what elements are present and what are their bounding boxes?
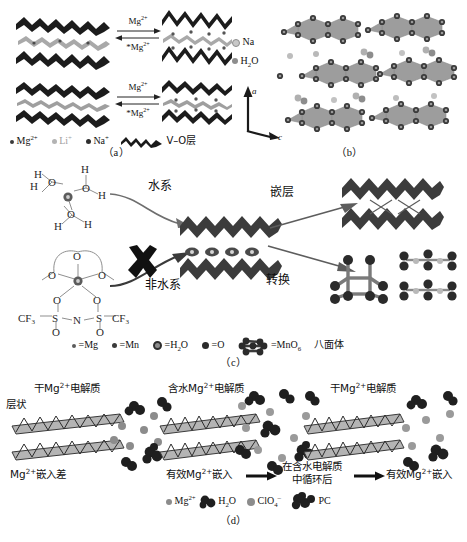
panel-d-legend: Mg2+ H2O ClO4– PC: [166, 490, 331, 509]
panel-a-row2-right-structure: [160, 78, 234, 132]
panel-b-legend-na-label: Na: [243, 36, 255, 47]
panel-a-row1-arrow-top-label: Mg2+: [115, 16, 161, 26]
interlayer-species-row1: [287, 47, 435, 59]
octahedron-cluster-icon: [238, 337, 268, 355]
panel-c-conversion-product-right: [398, 250, 462, 308]
panel-c-legend-item-h2o: =H2O: [153, 339, 188, 350]
panel-d-stage2-title: 含水Mg2+电解质: [168, 380, 244, 395]
panel-d-stage3-caption: 有效Mg2+嵌入: [386, 466, 452, 481]
panel-c-intercalation-label: 嵌层: [270, 182, 294, 199]
panel-c-blocked-x-icon: [124, 244, 162, 282]
atom-S: S: [96, 312, 102, 324]
atom-H: H: [81, 163, 89, 175]
panel-c-legend-item-mg: =Mg: [72, 339, 98, 350]
panel-d-legend-item-h2o: H2O: [200, 495, 236, 506]
clo4-dot-icon: [247, 498, 255, 506]
panel-d-arrow-2: [354, 470, 386, 482]
atom-N: N: [73, 314, 81, 326]
panel-d-layered-label: 层状: [6, 396, 26, 411]
h2o-dot-icon: [232, 58, 238, 64]
mg-dot-icon: [72, 344, 76, 348]
panel-a-row2-arrow-top-label: Mg2+: [115, 82, 161, 92]
panel-b-legend-item-h2o: H2O: [232, 55, 258, 67]
panel-b-crystal-structure: [276, 6, 464, 140]
atom-CF3: CF3: [18, 312, 35, 326]
atom-O: O: [93, 294, 101, 306]
panel-d-stage1-title: 干Mg2+电解质: [34, 380, 100, 395]
panel-a-row1-arrows: Mg2+ *Mg2+: [115, 16, 161, 53]
panel-c-legend-mno6-label: =MnO6: [271, 339, 301, 350]
interlayer-species-row2: [295, 93, 437, 105]
panel-c-legend: =Mg =Mn =H2O =O: [72, 334, 402, 355]
panel-b-legend: Na H2O: [232, 36, 258, 66]
panel-c-legend-item-mn: =Mn: [112, 339, 139, 350]
panel-c-legend-item-mno6: =MnO6: [238, 339, 303, 350]
panel-b: Na H2O a c: [232, 0, 467, 152]
atom-O: O: [52, 326, 60, 338]
panel-d-stage2-caption: 有效Mg2+嵌入: [166, 466, 232, 481]
figure-container: Mg2+ *Mg2+: [0, 0, 467, 542]
atom-CF3: CF3: [112, 312, 129, 326]
panel-c-conversion-product-left: [330, 252, 394, 308]
panel-d-label: （d）: [0, 512, 467, 527]
panel-d-legend-item-mg: Mg2+: [166, 495, 196, 506]
panel-a-row2-arrows: Mg2+ *Mg2+: [115, 82, 161, 119]
panel-d: 干Mg2+电解质 层状: [0, 374, 467, 542]
panel-a-row1-left-structure: [14, 14, 114, 72]
panel-c-legend-item-o: =O: [202, 339, 224, 350]
panel-c-intercalation-product: [340, 174, 450, 232]
atom-O: O: [67, 208, 75, 220]
atom-O: O: [82, 182, 90, 194]
panel-d-stage3-title: 干Mg2+电解质: [330, 380, 396, 395]
interlayer-hydrated-ions: [185, 248, 259, 257]
panel-a-row2-left-structure: [14, 80, 114, 130]
atom-O: O: [48, 176, 56, 188]
atom-O: O: [53, 294, 61, 306]
o-dot-icon: [202, 342, 209, 349]
atom-H: H: [98, 189, 106, 201]
atom-H: H: [84, 218, 92, 230]
atom-S: S: [52, 312, 58, 324]
panel-a: Mg2+ *Mg2+: [0, 0, 232, 152]
h2o-ring-icon: [153, 341, 162, 350]
panel-c-legend-octahedron-label: 八面体: [314, 339, 344, 350]
pc-cluster-icon: [292, 494, 316, 509]
panel-a-row1-right-structure: [160, 8, 234, 78]
atom-O: O: [73, 250, 81, 262]
atom-H: H: [30, 180, 38, 192]
panel-d-stage1-caption: Mg2+嵌入差: [10, 466, 66, 481]
na-dot-icon: [232, 39, 240, 47]
panel-d-arrow-1: [246, 470, 278, 482]
mn-dot-icon: [112, 343, 117, 348]
panel-d-middle-text-line2: 中循环后: [282, 473, 342, 486]
axis-a-label: a: [252, 86, 257, 96]
panel-c-label: （c）: [0, 354, 467, 369]
panel-a-row2-arrow-bottom-label: *Mg2+: [115, 108, 161, 118]
panel-d-legend-item-clo4: ClO4–: [247, 495, 281, 506]
atom-O: O: [48, 269, 56, 281]
atom-O: O: [98, 269, 106, 281]
panel-d-legend-pc-label: PC: [319, 495, 331, 506]
atom-H: H: [54, 220, 62, 232]
panel-c: O H H O H H O H H 水系: [0, 152, 467, 374]
panel-d-stage3-electrolyte-species: [396, 390, 466, 474]
panel-d-legend-item-pc: PC: [292, 495, 331, 506]
panel-a-row1-arrow-bottom-label: *Mg2+: [115, 42, 161, 52]
panel-b-legend-item-na: Na: [232, 36, 258, 48]
atom-H: H: [34, 168, 42, 180]
mg-dot-icon: [166, 499, 172, 505]
water-cluster-icon: [200, 495, 216, 508]
